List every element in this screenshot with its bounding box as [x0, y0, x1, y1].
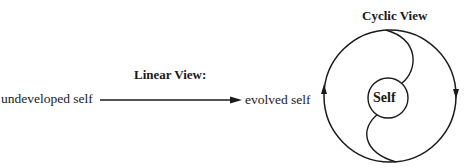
linear-arrow-icon [100, 97, 242, 104]
cycle-arrow-down-icon [453, 89, 459, 99]
cyclic-view-title: Cyclic View [362, 8, 427, 24]
self-label: Self [373, 90, 396, 106]
upper-connector-curve [386, 30, 413, 83]
diagram-canvas [0, 0, 469, 168]
lower-connector-curve [367, 114, 396, 162]
cycle-arrow-up-icon [321, 84, 327, 94]
